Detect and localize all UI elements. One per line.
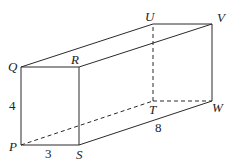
vertex-label-T: T xyxy=(149,102,157,117)
edge-QU xyxy=(21,24,153,67)
vertex-label-R: R xyxy=(70,52,79,67)
hidden-edge-PT xyxy=(21,101,153,145)
edge-SW xyxy=(79,101,212,145)
vertex-label-Q: Q xyxy=(8,59,18,74)
dimension-label-width: 3 xyxy=(45,146,52,161)
dimension-label-length: 8 xyxy=(155,120,162,135)
vertex-label-U: U xyxy=(145,9,156,24)
vertex-label-P: P xyxy=(8,139,17,154)
edge-RV xyxy=(79,24,212,67)
rectangular-prism-diagram: Q R P S U V T W 4 3 8 xyxy=(0,0,235,167)
vertex-label-V: V xyxy=(217,10,227,25)
vertex-label-S: S xyxy=(76,147,83,162)
vertex-label-W: W xyxy=(212,100,224,115)
dimension-label-height: 4 xyxy=(9,98,16,113)
